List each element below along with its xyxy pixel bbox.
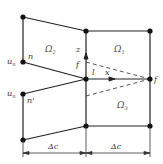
- z-arrow-icon: [84, 53, 88, 59]
- stencil-diagram: Ω2 Ω1 Ω3 n n' un un z f l x f Δc Δc: [0, 0, 163, 164]
- axis-arrows: [84, 53, 115, 81]
- dim-right-label: Δc: [110, 142, 122, 151]
- x-arrow-icon: [109, 77, 115, 81]
- region-omega2-label: Ω2: [44, 44, 56, 55]
- node-f-label: f: [153, 75, 159, 84]
- region-omega3-label: Ω3: [116, 100, 128, 111]
- l-label: l: [92, 68, 95, 77]
- dim-left-label: Δc: [47, 142, 59, 151]
- z-axis-label: z: [75, 45, 81, 54]
- face-f-label: f: [75, 60, 81, 69]
- dimension-lines: [23, 126, 150, 157]
- region-omega1-label: Ω1: [113, 44, 125, 55]
- node-n-prime-label: n': [27, 96, 34, 105]
- x-axis-label: x: [105, 68, 110, 77]
- u-n-label: un: [7, 57, 15, 67]
- diagram-canvas: Ω2 Ω1 Ω3 n n' un un z f l x f Δc Δc: [0, 0, 163, 164]
- u-n-prime-label: un: [7, 89, 15, 99]
- node-n-label: n: [28, 52, 33, 61]
